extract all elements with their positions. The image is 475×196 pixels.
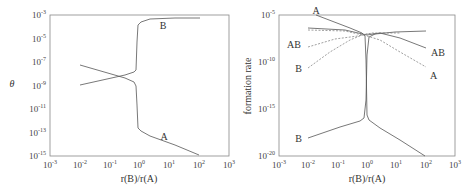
left-xtick: 101	[163, 159, 175, 170]
right-label-AB-right: AB	[431, 47, 445, 58]
right-xtick: 101	[390, 159, 402, 170]
left-xtick: 10-3	[43, 159, 57, 170]
right-xtick: 10-3	[272, 159, 286, 170]
right-x-axis-label: r(B)/r(A)	[349, 173, 386, 185]
left-plot-frame	[50, 15, 229, 156]
left-label-B: B	[160, 20, 167, 31]
right-label-B-left-solid: B	[295, 133, 302, 144]
left-y-ticks: 10-3 10-5 10-7 10-9 10-11 10-13 10-15	[29, 9, 46, 161]
right-label-AB-left: AB	[287, 39, 301, 50]
right-x-ticks: 10-3 10-2 10-1 100 101 102 103	[272, 159, 461, 170]
right-xtick: 103	[449, 159, 461, 170]
left-xtick: 103	[223, 159, 235, 170]
right-xtick: 102	[420, 159, 432, 170]
left-x-axis-label: r(B)/r(A)	[121, 173, 158, 185]
left-xtick: 10-1	[103, 159, 117, 170]
left-panel: 10-3 10-5 10-7 10-9 10-11 10-13 10-15 10…	[10, 9, 235, 185]
right-y-axis-label: formation rate	[242, 57, 253, 114]
left-xtick: 102	[193, 159, 205, 170]
right-curve-AB-dashed	[308, 33, 400, 47]
right-xtick: 100	[361, 159, 373, 170]
left-ytick: 10-5	[32, 33, 46, 44]
left-curve-B	[80, 18, 200, 85]
right-xtick: 10-2	[301, 159, 315, 170]
right-y-ticks: 10-5 10-10 10-15 10-20	[258, 9, 275, 161]
left-y-axis-label: θ	[10, 78, 15, 89]
right-curve-AB-solid	[308, 28, 426, 48]
left-x-ticks: 10-3 10-2 10-1 100 101 102 103	[43, 159, 235, 170]
left-xtick: 10-2	[73, 159, 87, 170]
right-xtick: 10-1	[331, 159, 345, 170]
left-ytick: 10-13	[29, 127, 46, 138]
right-label-A-top: A	[312, 5, 320, 16]
left-ytick: 10-9	[32, 80, 46, 91]
left-ytick: 10-7	[32, 56, 46, 67]
left-curve-A	[80, 65, 199, 155]
left-ytick: 10-11	[29, 103, 46, 114]
right-curve-B-solid	[308, 31, 426, 138]
right-ytick: 10-10	[258, 56, 275, 67]
right-panel: 10-5 10-10 10-15 10-20 10-3 10-2 10-1 10…	[242, 5, 461, 185]
right-ytick: 10-15	[258, 103, 275, 114]
left-xtick: 100	[133, 159, 145, 170]
figure: 10-3 10-5 10-7 10-9 10-11 10-13 10-15 10…	[0, 0, 475, 196]
left-ytick: 10-3	[32, 9, 46, 20]
right-label-A-right: A	[430, 70, 438, 81]
left-label-A: A	[160, 131, 168, 142]
right-curve-B-dashed	[308, 33, 385, 68]
right-ytick: 10-5	[261, 9, 275, 20]
right-label-B-left-dashed: B	[295, 63, 302, 74]
